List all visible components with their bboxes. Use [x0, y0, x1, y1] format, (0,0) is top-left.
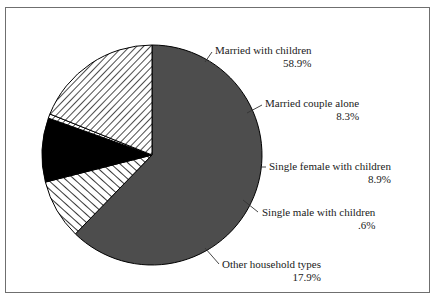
- slice-label-text: Single male with children: [262, 206, 375, 219]
- slice-label-percent: 8.9%: [269, 173, 391, 186]
- slice-label-percent: 8.3%: [265, 110, 359, 123]
- slice-label-percent: .6%: [262, 219, 375, 232]
- slice-label-single-female-with-children: Single female with children 8.9%: [269, 160, 391, 185]
- leader-line: [205, 248, 219, 264]
- slice-label-text: Married couple alone: [265, 97, 359, 110]
- slice-label-text: Other household types: [222, 258, 321, 271]
- slice-label-married-couple-alone: Married couple alone 8.3%: [265, 97, 359, 122]
- slice-label-other-household-types: Other household types 17.9%: [222, 258, 321, 283]
- slice-label-single-male-with-children: Single male with children .6%: [262, 206, 375, 231]
- slice-label-text: Single female with children: [269, 160, 391, 173]
- slice-label-married-with-children: Married with children 58.9%: [215, 44, 312, 69]
- slice-label-percent: 58.9%: [215, 57, 312, 70]
- slice-label-percent: 17.9%: [222, 271, 321, 284]
- pie-slices-group: [42, 45, 262, 265]
- pie-chart-figure: Married with children 58.9% Married coup…: [0, 0, 438, 301]
- slice-label-text: Married with children: [215, 44, 312, 57]
